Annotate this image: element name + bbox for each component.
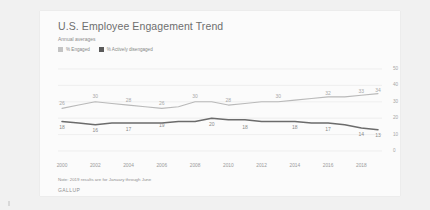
data-point-label: 30 <box>192 93 198 99</box>
data-point-label: 34 <box>375 87 381 93</box>
chart-subtitle: Annual averages <box>58 36 96 42</box>
y-axis-tick-label: 30 <box>393 99 398 104</box>
data-point-label: 33 <box>359 88 365 94</box>
legend-item-actively-disengaged[interactable]: % Actively disengaged <box>99 47 153 52</box>
data-point-label: 28 <box>226 97 232 103</box>
data-point-label: 26 <box>59 100 65 106</box>
x-axis-tick-label: 2004 <box>123 163 134 168</box>
data-point-label: 30 <box>275 93 281 99</box>
x-axis-tick-label: 2014 <box>289 163 300 168</box>
data-point-label: 32 <box>325 90 331 96</box>
data-point-label: 19 <box>159 122 165 128</box>
data-point-label: 26 <box>159 100 165 106</box>
data-point-label: 28 <box>126 97 132 103</box>
legend-label-actively-disengaged: % Actively disengaged <box>107 47 153 52</box>
data-point-label: 17 <box>126 126 132 132</box>
chart-card: U.S. Employee Engagement Trend Annual av… <box>40 11 400 196</box>
data-point-label: 20 <box>209 121 215 127</box>
x-axis-tick-label: 2000 <box>57 163 68 168</box>
legend-label-engaged: % Engaged <box>66 47 90 52</box>
data-point-label: 18 <box>292 124 298 130</box>
page-title: U.S. Employee Engagement Trend <box>58 20 223 32</box>
line-chart-svg: 2630282630283032333418161719201818171413 <box>58 63 382 161</box>
data-point-label: 14 <box>359 131 365 137</box>
y-axis-tick-label: 0 <box>393 148 396 153</box>
legend-item-engaged[interactable]: % Engaged <box>58 47 90 52</box>
data-point-label: 16 <box>92 127 98 133</box>
y-axis-tick-label: 40 <box>393 82 398 87</box>
brand-label: GALLUP <box>58 187 80 193</box>
x-axis-tick-label: 2012 <box>256 163 267 168</box>
x-axis-tick-label: 2006 <box>156 163 167 168</box>
chart-legend: % Engaged % Actively disengaged <box>58 47 153 52</box>
page-artifact <box>8 201 10 206</box>
chart-plot-area: 2630282630283032333418161719201818171413 <box>58 63 382 161</box>
y-axis-tick-label: 20 <box>393 115 398 120</box>
x-axis-tick-label: 2016 <box>323 163 334 168</box>
chart-note: Note: 2019 results are for January throu… <box>58 177 151 182</box>
data-point-label: 17 <box>325 126 331 132</box>
data-point-label: 13 <box>375 132 381 138</box>
x-axis: 2000200220042006200820102012201420162018 <box>58 163 382 175</box>
data-point-label: 18 <box>242 124 248 130</box>
legend-swatch-icon <box>99 47 104 52</box>
x-axis-tick-label: 2010 <box>223 163 234 168</box>
y-axis-tick-label: 50 <box>393 66 398 71</box>
y-axis: 50403020100 <box>385 63 407 161</box>
legend-swatch-icon <box>58 47 63 52</box>
data-point-label: 18 <box>59 124 65 130</box>
y-axis-tick-label: 10 <box>393 132 398 137</box>
x-axis-tick-label: 2018 <box>356 163 367 168</box>
data-point-label: 30 <box>92 93 98 99</box>
x-axis-tick-label: 2008 <box>190 163 201 168</box>
x-axis-tick-label: 2002 <box>90 163 101 168</box>
